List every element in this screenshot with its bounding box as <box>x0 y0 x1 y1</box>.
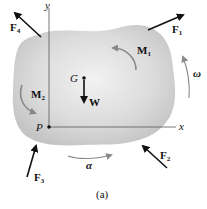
center-of-mass-label: G <box>70 73 78 84</box>
force-f3-label: F3 <box>34 172 44 185</box>
point-p-label: P <box>36 122 43 133</box>
weight-label: W <box>89 97 100 108</box>
point-p <box>47 125 51 129</box>
angular-acceleration-arrow <box>68 155 111 159</box>
y-axis-label: y <box>45 0 50 11</box>
moment-m1-label: M1 <box>137 45 151 58</box>
force-f4-label: F4 <box>10 22 20 35</box>
angular-velocity-arrow <box>183 57 189 98</box>
figure-caption: (a) <box>96 189 108 200</box>
angular-acceleration-label: α <box>86 160 92 171</box>
center-of-mass-point <box>82 76 86 80</box>
force-f2-label: F2 <box>160 150 170 163</box>
moment-m2-label: M2 <box>31 89 45 102</box>
rigid-body-free-body-diagram: y x P G W F1 F2 F3 F4 M1 M2 ω α (a) <box>0 0 207 209</box>
force-f1-label: F1 <box>172 24 182 37</box>
angular-velocity-label: ω <box>193 68 201 79</box>
x-axis-label: x <box>179 121 184 132</box>
